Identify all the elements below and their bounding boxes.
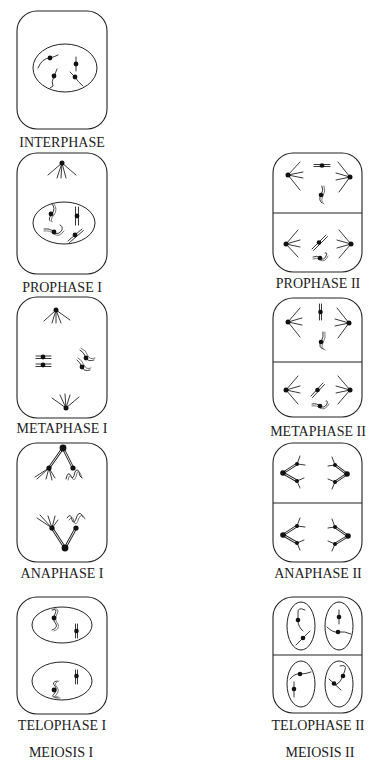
chromosome <box>319 186 325 204</box>
cell-membrane <box>17 11 107 129</box>
chromosome <box>37 515 58 531</box>
aster <box>336 162 353 192</box>
meiosis-1-column: INTERPHASE <box>16 11 107 760</box>
stage-anaphase-1: ANAPHASE I <box>17 443 107 581</box>
column-title-meiosis-1: MEIOSIS I <box>29 745 94 760</box>
spindle-v <box>328 519 351 551</box>
aster <box>337 230 354 258</box>
chromosome <box>66 465 82 480</box>
chromosome <box>327 627 351 634</box>
aster <box>286 308 303 337</box>
centrosome-top <box>44 308 70 324</box>
stage-label: PROPHASE II <box>276 276 361 291</box>
stage-label: ANAPHASE II <box>274 566 362 581</box>
chromosome <box>70 72 83 86</box>
stage-metaphase-2: METAPHASE II <box>270 298 366 439</box>
chromosome <box>329 679 341 690</box>
chromosome-pair <box>36 355 51 360</box>
spindle-v <box>328 457 350 489</box>
aster <box>286 162 304 190</box>
chromosome-pair <box>36 363 51 368</box>
chromosome <box>312 235 328 251</box>
centrosome-bottom <box>52 394 79 411</box>
chromosome-pair <box>77 358 91 371</box>
stage-label: METAPHASE II <box>270 424 366 439</box>
stage-label: TELOPHASE I <box>18 718 107 733</box>
nucleus <box>287 602 315 650</box>
meiosis-2-column: PROPHASE II <box>270 153 366 760</box>
aster <box>335 308 352 338</box>
chromosome <box>74 624 79 638</box>
spindle-v <box>280 456 305 488</box>
chromosome <box>313 253 328 261</box>
stage-metaphase-1: METAPHASE I <box>16 297 107 436</box>
chromosome <box>296 609 305 631</box>
cell-membrane <box>17 153 107 274</box>
aster <box>336 376 353 404</box>
stage-label: INTERPHASE <box>19 135 105 150</box>
spindle-bottom <box>52 528 76 551</box>
chromosome <box>292 682 297 697</box>
chromosome <box>52 681 60 698</box>
chromosome <box>337 610 342 624</box>
stage-prophase-1: PROPHASE I <box>17 153 107 295</box>
stage-telophase-1: TELOPHASE I <box>17 597 107 733</box>
nucleus <box>325 602 353 650</box>
chromosome <box>290 672 311 679</box>
stage-interphase: INTERPHASE <box>17 11 107 150</box>
column-title-meiosis-2: MEIOSIS II <box>286 745 355 760</box>
stage-label: PROPHASE I <box>22 280 102 295</box>
stage-label: TELOPHASE II <box>272 718 365 733</box>
chromosome <box>311 383 325 398</box>
chromosome-pair <box>75 207 80 225</box>
aster <box>284 230 301 257</box>
stage-telophase-2: TELOPHASE II <box>272 597 365 733</box>
nucleus <box>33 202 95 244</box>
chromosome <box>296 631 310 645</box>
centrosome <box>48 161 76 179</box>
nucleus <box>287 661 315 707</box>
chromosome <box>312 401 329 409</box>
chromosome <box>318 304 323 320</box>
spindle-v <box>280 518 305 550</box>
chromosome <box>67 513 85 530</box>
chromosome <box>74 57 79 71</box>
chromosome <box>38 55 58 68</box>
nucleus <box>33 44 97 92</box>
chromosome <box>35 465 55 480</box>
stage-label: ANAPHASE I <box>21 566 104 581</box>
cell-membrane <box>17 597 107 714</box>
chromosome-pair <box>80 348 95 361</box>
meiosis-diagram: INTERPHASE <box>0 0 383 770</box>
nucleus-top <box>32 607 92 643</box>
spindle-top <box>49 445 73 468</box>
chromosome-pair <box>44 225 64 235</box>
chromosome-pair <box>49 204 56 222</box>
chromosome <box>314 163 330 168</box>
nucleus-bottom <box>32 662 92 700</box>
chromosome <box>336 666 345 686</box>
aster <box>284 376 301 404</box>
chromosome <box>74 670 79 684</box>
stage-anaphase-2: ANAPHASE II <box>273 443 362 581</box>
cell-membrane <box>273 298 362 417</box>
chromosome <box>52 609 59 631</box>
nucleus <box>325 661 353 707</box>
chromosome <box>50 69 57 88</box>
chromosome <box>319 332 326 350</box>
stage-label: METAPHASE I <box>16 421 107 436</box>
stage-prophase-2: PROPHASE II <box>273 153 362 291</box>
